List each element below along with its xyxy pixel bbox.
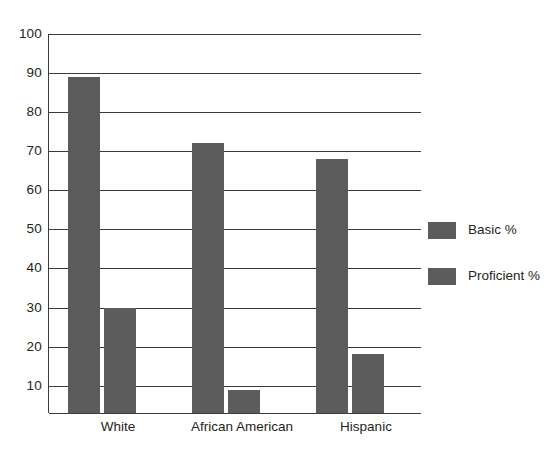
y-axis-tick-labels: 100908070605040302010 — [10, 0, 42, 450]
bar — [316, 159, 348, 413]
bars-layer — [49, 34, 421, 413]
chart-legend: Basic %Proficient % — [428, 218, 546, 310]
bar — [192, 143, 224, 413]
x-axis-label-2: Hispanic — [340, 419, 392, 435]
legend-label: Basic % — [468, 223, 517, 237]
y-axis-tick-100: 100 — [10, 27, 42, 41]
bar — [68, 77, 100, 413]
x-axis-category-labels: WhiteAfrican AmericanHispanic — [48, 419, 420, 443]
x-axis-label-0: White — [101, 419, 136, 435]
bar — [228, 390, 260, 413]
y-axis-tick-60: 60 — [10, 183, 42, 197]
x-axis-label-1: African American — [191, 419, 293, 435]
legend-swatch-icon — [428, 268, 456, 285]
y-axis-tick-90: 90 — [10, 66, 42, 80]
y-axis-tick-70: 70 — [10, 144, 42, 158]
bar-chart: 100908070605040302010 WhiteAfrican Ameri… — [0, 0, 548, 450]
legend-item: Proficient % — [428, 264, 546, 288]
y-axis-tick-10: 10 — [10, 379, 42, 393]
legend-item: Basic % — [428, 218, 546, 242]
y-axis-tick-50: 50 — [10, 222, 42, 236]
plot-area — [48, 34, 420, 413]
y-axis-tick-20: 20 — [10, 340, 42, 354]
legend-swatch-icon — [428, 222, 456, 239]
bar — [104, 308, 136, 413]
x-axis-baseline — [49, 413, 421, 414]
y-axis-tick-80: 80 — [10, 105, 42, 119]
y-axis-tick-30: 30 — [10, 301, 42, 315]
y-axis-tick-40: 40 — [10, 261, 42, 275]
legend-label: Proficient % — [468, 269, 540, 283]
bar — [352, 354, 384, 413]
